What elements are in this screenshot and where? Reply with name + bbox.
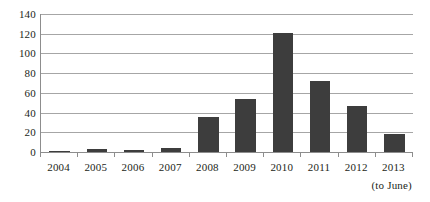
bar-slot (376, 14, 413, 152)
annotation-to-june: (to June) (371, 178, 412, 194)
x-axis-tick (114, 152, 115, 157)
x-axis-label-2008: 2008 (189, 160, 226, 178)
bar-2008 (198, 117, 218, 152)
x-axis-label-2006: 2006 (114, 160, 151, 178)
bar-slot (78, 14, 115, 152)
y-axis-tick-label: 60 (0, 87, 36, 98)
x-axis-labels: 2004200520062007200820092010201120122013 (40, 160, 412, 178)
bar-2010 (273, 33, 293, 152)
bar-slot (339, 14, 376, 152)
bar-slot (115, 14, 152, 152)
x-axis-label-2007: 2007 (152, 160, 189, 178)
bar-chart: 020406080100120140 200420052006200720082… (0, 0, 430, 202)
y-axis-tick-label: 20 (0, 127, 36, 138)
y-axis-tick-label: 80 (0, 68, 36, 79)
bar-slot (153, 14, 190, 152)
x-axis-tick (189, 152, 190, 157)
x-axis-tick (152, 152, 153, 157)
bar-series (41, 14, 413, 152)
y-axis-tick-label: 100 (0, 48, 36, 59)
x-axis-label-2012: 2012 (338, 160, 375, 178)
bar-slot (190, 14, 227, 152)
x-axis-ticks (40, 152, 412, 157)
x-axis-tick (412, 152, 413, 157)
x-axis-tick (40, 152, 41, 157)
bar-slot (264, 14, 301, 152)
bar-slot (227, 14, 264, 152)
bar-2012 (347, 106, 367, 152)
y-axis-tick-label: 120 (0, 28, 36, 39)
annotation-row: (to June) (40, 178, 412, 194)
bar-2013 (384, 134, 404, 152)
y-axis-tick-label: 40 (0, 107, 36, 118)
y-axis-tick-label: 140 (0, 9, 36, 20)
x-axis-tick (375, 152, 376, 157)
x-axis-label-2011: 2011 (300, 160, 337, 178)
y-axis-tick-label: 0 (0, 147, 36, 158)
bar-2011 (310, 81, 330, 152)
bar-slot (301, 14, 338, 152)
x-axis-tick (338, 152, 339, 157)
x-axis-label-2005: 2005 (77, 160, 114, 178)
bar-2009 (235, 99, 255, 152)
x-axis-label-2013: 2013 (375, 160, 412, 178)
bar-slot (41, 14, 78, 152)
x-axis-tick (226, 152, 227, 157)
x-axis-label-2010: 2010 (263, 160, 300, 178)
y-axis-labels: 020406080100120140 (0, 0, 36, 202)
x-axis-tick (77, 152, 78, 157)
plot-area (40, 14, 413, 152)
x-axis-tick (300, 152, 301, 157)
annotation-spacer (40, 178, 371, 194)
x-axis-label-2004: 2004 (40, 160, 77, 178)
x-axis-label-2009: 2009 (226, 160, 263, 178)
x-axis-tick (263, 152, 264, 157)
